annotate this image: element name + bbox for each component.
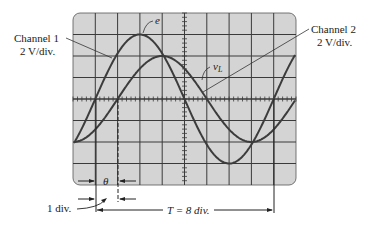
theta-label: θ [103, 175, 109, 187]
arrowhead [97, 208, 103, 212]
arrowhead [119, 197, 125, 201]
e-label: e [155, 14, 160, 26]
arrowhead [89, 197, 95, 201]
channel1-name: Channel 1 [14, 32, 59, 44]
channel2-name: Channel 2 [311, 23, 356, 35]
one-div-label: 1 div. [47, 202, 72, 214]
channel1-scale: 2 V/div. [20, 45, 55, 57]
arrowhead [267, 208, 273, 212]
channel2-scale: 2 V/div. [317, 36, 352, 48]
period-label: T = 8 div. [167, 204, 209, 216]
oscilloscope-diagram: Channel 1 2 V/div. Channel 2 2 V/div. e … [0, 0, 372, 227]
one-div-leader [77, 200, 105, 209]
